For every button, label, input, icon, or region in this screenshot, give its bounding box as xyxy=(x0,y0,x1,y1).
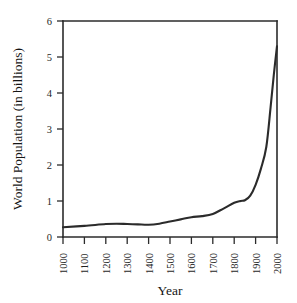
x-tick-label-2000: 2000 xyxy=(272,253,283,274)
x-tick-label-1600: 1600 xyxy=(186,253,197,274)
y-axis-tick-labels: 0 1 2 3 4 5 6 xyxy=(47,16,53,243)
x-tick-label-1000: 1000 xyxy=(58,253,69,274)
y-tick-label-5: 5 xyxy=(47,52,52,63)
y-tick-label-0: 0 xyxy=(47,232,52,243)
y-axis-ticks xyxy=(57,21,63,237)
x-tick-label-1800: 1800 xyxy=(229,253,240,274)
x-axis-tick-labels: 1000 1100 1200 1300 1400 1500 1600 1700 … xyxy=(58,253,283,274)
x-axis-ticks xyxy=(63,237,277,244)
y-axis-title: World Population (in billions) xyxy=(10,48,25,210)
x-tick-label-1400: 1400 xyxy=(144,253,155,274)
x-tick-label-1700: 1700 xyxy=(208,253,219,274)
x-tick-label-1200: 1200 xyxy=(101,253,112,274)
x-tick-label-1900: 1900 xyxy=(251,253,262,274)
y-tick-label-2: 2 xyxy=(47,160,52,171)
x-tick-label-1100: 1100 xyxy=(79,253,90,274)
population-line-series xyxy=(63,46,277,227)
x-tick-label-1300: 1300 xyxy=(122,253,133,274)
x-axis-title: Year xyxy=(158,283,183,298)
y-tick-label-1: 1 xyxy=(47,196,52,207)
y-tick-label-4: 4 xyxy=(47,88,53,99)
world-population-chart: 0 1 2 3 4 5 6 1000 1100 1200 13 xyxy=(0,0,297,303)
y-tick-label-3: 3 xyxy=(47,124,52,135)
y-tick-label-6: 6 xyxy=(47,16,52,27)
chart-canvas: 0 1 2 3 4 5 6 1000 1100 1200 13 xyxy=(0,0,297,303)
x-tick-label-1500: 1500 xyxy=(165,253,176,274)
plot-axes xyxy=(63,21,277,237)
